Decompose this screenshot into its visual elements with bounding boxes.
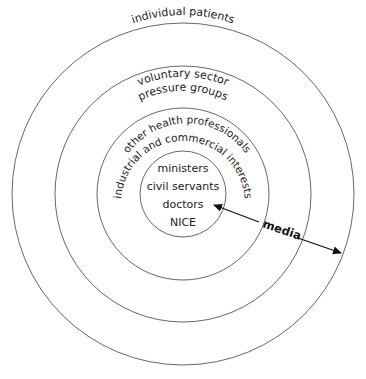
label-doctors: doctors	[162, 198, 203, 211]
label-civil-servants: civil servants	[147, 180, 220, 193]
label-nice: NICE	[170, 216, 196, 229]
arrow-head-outer-icon	[298, 238, 341, 253]
influence-diagram: individual patients voluntary sector pre…	[0, 0, 366, 379]
label-ministers: ministers	[158, 162, 209, 175]
media-arrow: media	[214, 205, 341, 253]
label-media: media	[261, 217, 303, 243]
arrow-head-inner-icon	[214, 205, 259, 222]
ring-second	[55, 66, 311, 322]
